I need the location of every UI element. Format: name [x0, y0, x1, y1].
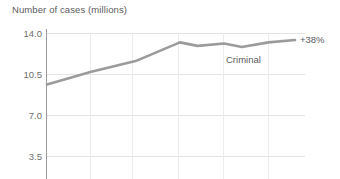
- series-plot-svg: [0, 0, 340, 179]
- growth-annotation-label: +38%: [300, 34, 325, 45]
- series-label-criminal: Criminal: [226, 54, 261, 65]
- chart-figure: Number of cases (millions) 14.0 10.5 7.0…: [0, 0, 340, 179]
